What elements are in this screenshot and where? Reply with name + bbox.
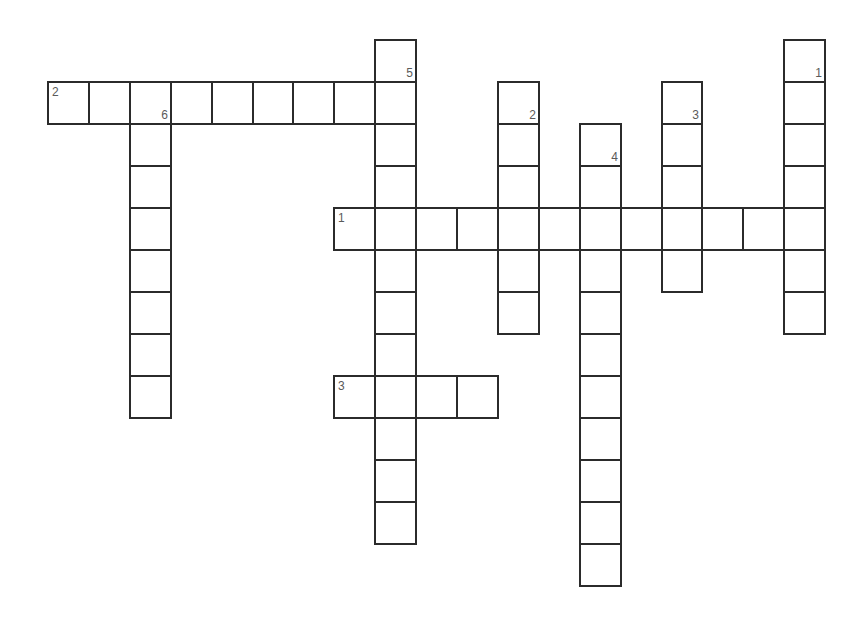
letter-input[interactable] xyxy=(376,41,415,81)
letter-input[interactable] xyxy=(581,377,620,417)
letter-input[interactable] xyxy=(376,377,415,417)
grid-cell[interactable] xyxy=(783,123,826,167)
letter-input[interactable] xyxy=(785,125,824,165)
grid-cell[interactable] xyxy=(497,207,540,251)
grid-cell[interactable] xyxy=(783,249,826,293)
grid-cell[interactable] xyxy=(374,459,417,503)
grid-cell[interactable] xyxy=(374,375,417,419)
grid-cell[interactable] xyxy=(374,165,417,209)
letter-input[interactable] xyxy=(663,83,701,123)
letter-input[interactable] xyxy=(458,209,497,249)
grid-cell[interactable] xyxy=(456,207,499,251)
letter-input[interactable] xyxy=(785,167,824,207)
letter-input[interactable] xyxy=(703,209,742,249)
letter-input[interactable] xyxy=(376,293,415,333)
grid-cell[interactable]: 1 xyxy=(333,207,376,251)
letter-input[interactable] xyxy=(376,461,415,501)
grid-cell[interactable] xyxy=(415,375,458,419)
grid-cell[interactable] xyxy=(661,249,703,293)
letter-input[interactable] xyxy=(376,335,415,375)
letter-input[interactable] xyxy=(335,209,374,249)
grid-cell[interactable] xyxy=(129,375,172,419)
letter-input[interactable] xyxy=(581,503,620,543)
letter-input[interactable] xyxy=(90,83,129,123)
grid-cell[interactable]: 1 xyxy=(783,39,826,83)
letter-input[interactable] xyxy=(458,377,497,417)
grid-cell[interactable] xyxy=(783,165,826,209)
letter-input[interactable] xyxy=(131,335,170,375)
grid-cell[interactable] xyxy=(538,207,581,251)
grid-cell[interactable] xyxy=(579,291,622,335)
letter-input[interactable] xyxy=(131,167,170,207)
letter-input[interactable] xyxy=(785,209,824,249)
grid-cell[interactable] xyxy=(170,81,213,125)
grid-cell[interactable] xyxy=(252,81,294,125)
grid-cell[interactable] xyxy=(129,165,172,209)
letter-input[interactable] xyxy=(131,251,170,291)
letter-input[interactable] xyxy=(663,209,701,249)
letter-input[interactable] xyxy=(376,419,415,459)
letter-input[interactable] xyxy=(294,83,333,123)
grid-cell[interactable]: 2 xyxy=(497,81,540,125)
letter-input[interactable] xyxy=(131,209,170,249)
letter-input[interactable] xyxy=(376,251,415,291)
letter-input[interactable] xyxy=(131,125,170,165)
letter-input[interactable] xyxy=(131,377,170,417)
letter-input[interactable] xyxy=(663,167,701,207)
letter-input[interactable] xyxy=(499,167,538,207)
grid-cell[interactable] xyxy=(456,375,499,419)
letter-input[interactable] xyxy=(376,125,415,165)
grid-cell[interactable] xyxy=(129,291,172,335)
grid-cell[interactable] xyxy=(374,333,417,377)
grid-cell[interactable] xyxy=(661,207,703,251)
letter-input[interactable] xyxy=(417,377,456,417)
grid-cell[interactable] xyxy=(783,81,826,125)
grid-cell[interactable] xyxy=(579,543,622,587)
letter-input[interactable] xyxy=(785,251,824,291)
grid-cell[interactable] xyxy=(579,501,622,545)
grid-cell[interactable]: 3 xyxy=(333,375,376,419)
letter-input[interactable] xyxy=(131,83,170,123)
letter-input[interactable] xyxy=(581,251,620,291)
letter-input[interactable] xyxy=(499,251,538,291)
letter-input[interactable] xyxy=(622,209,661,249)
grid-cell[interactable]: 4 xyxy=(579,123,622,167)
letter-input[interactable] xyxy=(581,335,620,375)
letter-input[interactable] xyxy=(254,83,292,123)
letter-input[interactable] xyxy=(581,125,620,165)
grid-cell[interactable] xyxy=(374,249,417,293)
grid-cell[interactable] xyxy=(374,207,417,251)
letter-input[interactable] xyxy=(335,83,374,123)
letter-input[interactable] xyxy=(540,209,579,249)
letter-input[interactable] xyxy=(376,209,415,249)
letter-input[interactable] xyxy=(131,293,170,333)
grid-cell[interactable] xyxy=(211,81,254,125)
letter-input[interactable] xyxy=(663,125,701,165)
letter-input[interactable] xyxy=(581,293,620,333)
letter-input[interactable] xyxy=(744,209,783,249)
grid-cell[interactable] xyxy=(415,207,458,251)
grid-cell[interactable] xyxy=(129,123,172,167)
letter-input[interactable] xyxy=(581,167,620,207)
grid-cell[interactable] xyxy=(579,333,622,377)
letter-input[interactable] xyxy=(172,83,211,123)
grid-cell[interactable] xyxy=(579,375,622,419)
grid-cell[interactable]: 6 xyxy=(129,81,172,125)
grid-cell[interactable] xyxy=(579,165,622,209)
grid-cell[interactable] xyxy=(129,249,172,293)
grid-cell[interactable] xyxy=(783,291,826,335)
letter-input[interactable] xyxy=(785,293,824,333)
grid-cell[interactable] xyxy=(579,249,622,293)
grid-cell[interactable] xyxy=(497,165,540,209)
grid-cell[interactable] xyxy=(374,417,417,461)
grid-cell[interactable] xyxy=(742,207,785,251)
letter-input[interactable] xyxy=(499,83,538,123)
grid-cell[interactable] xyxy=(88,81,131,125)
letter-input[interactable] xyxy=(376,503,415,543)
grid-cell[interactable] xyxy=(661,123,703,167)
letter-input[interactable] xyxy=(785,83,824,123)
grid-cell[interactable]: 5 xyxy=(374,39,417,83)
letter-input[interactable] xyxy=(785,41,824,81)
grid-cell[interactable] xyxy=(374,81,417,125)
grid-cell[interactable] xyxy=(620,207,663,251)
